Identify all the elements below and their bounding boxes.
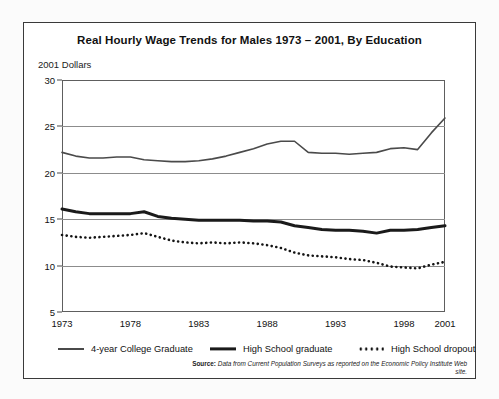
figure-frame: Real Hourly Wage Trends for Males 1973 –… [23,22,476,379]
legend-swatch-thin-solid [58,344,84,354]
y-tick-label: 30 [44,75,55,86]
plot-area: 51015202530 1973197819831988199319982001 [62,80,445,312]
page-title: Real Hourly Wage Trends for Males 1973 –… [24,34,475,46]
legend-swatch-dotted [358,344,384,354]
legend-swatch-thick-solid [210,344,236,354]
y-tick-label: 5 [50,307,55,318]
source-text: Data from Current Population Surveys as … [216,360,467,375]
series-lines [62,80,445,312]
legend-item[interactable]: High School dropout [358,341,475,357]
x-tick-label: 1978 [120,318,141,329]
legend-label: High School dropout [391,344,475,354]
y-tick-label: 25 [44,121,55,132]
series-line [62,209,445,233]
legend-item[interactable]: High School graduate [210,341,332,357]
y-tick-label: 10 [44,260,55,271]
x-tick-label: 1993 [325,318,346,329]
source-label: Source: [192,360,216,367]
source-note: Source: Data from Current Population Sur… [192,360,467,375]
legend-item[interactable]: 4-year College Graduate [58,341,193,357]
y-tick-label: 20 [44,167,55,178]
x-tick-label: 1988 [257,318,278,329]
x-tick-label: 1998 [393,318,414,329]
series-line [62,233,445,268]
chart-page: Real Hourly Wage Trends for Males 1973 –… [0,0,499,399]
chart-legend: 4-year College GraduateHigh School gradu… [58,341,458,357]
x-tick-label: 1983 [188,318,209,329]
x-tick-label: 2001 [434,318,455,329]
legend-label: 4-year College Graduate [91,344,193,354]
series-line [62,118,445,162]
y-tick-label: 15 [44,214,55,225]
y-axis-title: 2001 Dollars [38,59,91,70]
x-tick-label: 1973 [51,318,72,329]
legend-label: High School graduate [243,344,332,354]
